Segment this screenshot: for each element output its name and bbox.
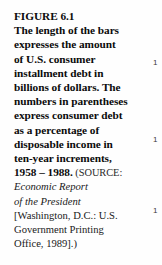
caption-line: expresses the amount (14, 37, 145, 51)
source-colon: : (119, 167, 122, 178)
caption-line: billions of dollars. The (14, 80, 145, 94)
caption-line: express consumer debt (14, 108, 145, 122)
caption-date-range-and-source-opener: 1958 – 1988. (SOURCE: (14, 165, 145, 180)
source-line: Economic Report (14, 180, 145, 194)
figure-label: FIGURE 6.1 (14, 9, 145, 23)
caption-line: of U.S. consumer (14, 52, 145, 66)
source-line: Office, 1989].) (14, 237, 145, 251)
figure-caption-block: FIGURE 6.1 The length of the bars expres… (14, 9, 145, 251)
chart-axis-tick-label: 1 (153, 207, 162, 215)
caption-date-range: 1958 – 1988. (14, 166, 73, 178)
chart-axis-tick-label: 1 (153, 136, 162, 144)
source-keyword: SOURCE (79, 167, 120, 178)
source-line: of the President (14, 195, 145, 209)
caption-line: ten-year increments, (14, 151, 145, 165)
chart-axis-tick-label: 1 (153, 59, 162, 67)
source-line: Government Printing (14, 223, 145, 237)
caption-line: as a percentage of (14, 123, 145, 137)
caption-line: The length of the bars (14, 23, 145, 37)
source-line: [Washington, D.C.: U.S. (14, 209, 145, 223)
caption-line: disposable income in (14, 137, 145, 151)
caption-line: numbers in parentheses (14, 94, 145, 108)
caption-line: installment debt in (14, 66, 145, 80)
